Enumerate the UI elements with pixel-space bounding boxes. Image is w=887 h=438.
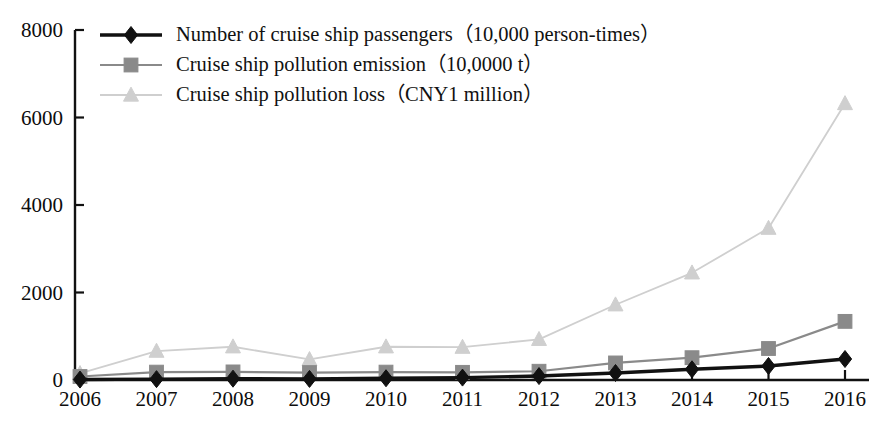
y-axis-tick-label: 6000 — [21, 106, 63, 130]
triangle-marker — [838, 96, 853, 110]
x-axis-tick-label: 2016 — [824, 387, 866, 411]
legend-item-1[interactable]: Number of cruise ship passengers（10,000 … — [100, 23, 660, 46]
y-axis-tick-label: 4000 — [21, 193, 63, 217]
legend-item-3[interactable]: Cruise ship pollution loss（CNY1 million） — [100, 83, 543, 106]
triangle-marker — [608, 297, 623, 311]
triangle-marker — [226, 339, 241, 353]
chart-legend: Number of cruise ship passengers（10,000 … — [100, 23, 660, 106]
legend-label: Cruise ship pollution emission（10,0000 t… — [176, 53, 543, 76]
chart-container: 02000400060008000 2006200720082009201020… — [0, 0, 887, 438]
square-marker — [838, 314, 852, 328]
square-marker — [762, 342, 776, 356]
square-marker — [124, 58, 138, 72]
triangle-marker — [532, 331, 547, 345]
y-axis-tick-label: 8000 — [21, 18, 63, 42]
legend-item-2[interactable]: Cruise ship pollution emission（10,0000 t… — [100, 53, 543, 76]
x-axis-tick-label: 2008 — [212, 387, 254, 411]
x-axis-tick-label: 2010 — [365, 387, 407, 411]
x-axis-tick-label: 2009 — [289, 387, 331, 411]
y-axis-tick-labels: 02000400060008000 — [21, 18, 63, 392]
x-axis-tick-label: 2015 — [748, 387, 790, 411]
series-3 — [73, 96, 853, 380]
x-axis-tick-label: 2006 — [59, 387, 101, 411]
x-axis-tick-labels: 2006200720082009201020112012201320142015… — [59, 387, 866, 411]
diamond-marker — [838, 351, 851, 368]
legend-label: Cruise ship pollution loss（CNY1 million） — [176, 83, 543, 106]
data-series-group — [73, 96, 853, 388]
x-axis-tick-label: 2012 — [518, 387, 560, 411]
legend-label: Number of cruise ship passengers（10,000 … — [176, 23, 660, 46]
x-axis-tick-label: 2011 — [442, 387, 483, 411]
triangle-marker — [685, 265, 700, 279]
y-axis-tick-label: 2000 — [21, 281, 63, 305]
x-axis-tick-label: 2013 — [595, 387, 637, 411]
diamond-marker — [762, 358, 775, 375]
triangle-marker — [761, 220, 776, 234]
diamond-marker — [124, 27, 137, 44]
x-axis-tick-label: 2007 — [136, 387, 178, 411]
line-chart: 02000400060008000 2006200720082009201020… — [0, 0, 887, 438]
series-1 — [73, 351, 851, 389]
x-axis-tick-label: 2014 — [671, 387, 714, 411]
series-line — [80, 104, 845, 374]
